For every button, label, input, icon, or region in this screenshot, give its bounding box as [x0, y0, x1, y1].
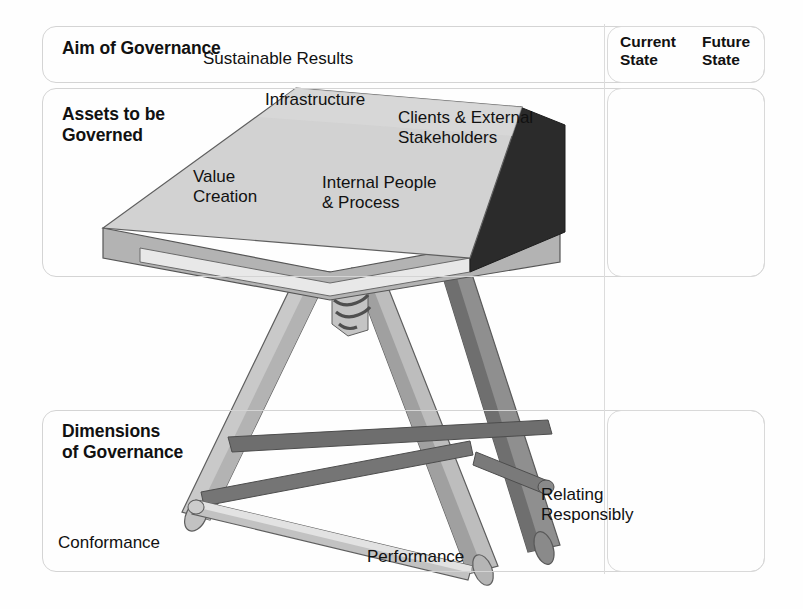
column-header-future-state: Future State — [702, 33, 750, 70]
asset-label-internal-people-process: Internal People & Process — [322, 173, 436, 213]
column-header-current-state: Current State — [620, 33, 676, 70]
dimension-label-performance: Performance — [367, 547, 464, 567]
asset-label-value-creation: Value Creation — [193, 167, 257, 207]
diagram-canvas: Aim of Governance Sustainable Results As… — [0, 0, 803, 609]
label-dimensions-of-governance: Dimensions of Governance — [62, 421, 183, 462]
dimension-label-conformance: Conformance — [58, 533, 160, 553]
label-sustainable-results: Sustainable Results — [203, 49, 353, 69]
dimension-label-relating-responsibly: Relating Responsibly — [541, 485, 634, 525]
asset-label-clients-external-stakeholders: Clients & External Stakeholders — [398, 108, 533, 148]
label-assets-to-be-governed: Assets to be Governed — [62, 104, 165, 145]
asset-label-infrastructure: Infrastructure — [265, 90, 365, 110]
label-aim-of-governance: Aim of Governance — [62, 38, 221, 59]
